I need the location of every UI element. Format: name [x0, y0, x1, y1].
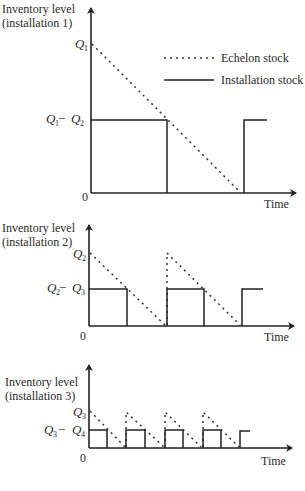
chart-installation-2: Inventory level (installation 2) Q 2 Q 2… — [2, 221, 294, 344]
y-tick-mid: Q 3 − Q 4 — [44, 422, 85, 439]
origin-label: 0 — [82, 190, 88, 204]
x-axis-label: Time — [264, 197, 289, 211]
figure-canvas: Inventory level (installation 1) Q 1 Q 1… — [0, 0, 305, 491]
y-tick-mid: Q 1 − Q 2 — [46, 111, 84, 128]
y-tick-top: Q 2 — [73, 246, 86, 263]
y-axis-label-line1: Inventory level — [2, 221, 76, 235]
svg-text:2: 2 — [80, 119, 84, 128]
y-tick-mid: Q 2 − Q 3 — [47, 280, 85, 297]
y-axis-label-line1: Inventory level — [5, 375, 79, 389]
chart-installation-1: Inventory level (installation 1) Q 1 Q 1… — [2, 2, 303, 211]
svg-text:3: 3 — [81, 288, 85, 297]
installation-stock-line — [89, 289, 263, 326]
x-axis-label: Time — [261, 454, 286, 468]
y-tick-top: Q 3 — [73, 404, 86, 421]
origin-label: 0 — [80, 451, 86, 465]
installation-stock-line — [89, 430, 250, 448]
legend: Echelon stock Installation stock — [164, 51, 303, 87]
svg-text:2: 2 — [82, 254, 86, 263]
y-axis-label-line2: (installation 1) — [2, 16, 72, 30]
origin-label: 0 — [80, 329, 86, 343]
y-axis-label-line2: (installation 3) — [5, 389, 75, 403]
svg-text:1: 1 — [84, 44, 88, 53]
svg-text:4: 4 — [81, 430, 85, 439]
y-axis-label-line2: (installation 2) — [2, 235, 72, 249]
svg-text:−: − — [58, 111, 65, 126]
svg-text:3: 3 — [82, 412, 86, 421]
svg-text:−: − — [58, 422, 65, 437]
legend-installation-label: Installation stock — [221, 73, 303, 87]
svg-text:3: 3 — [53, 430, 57, 439]
x-axis-label: Time — [264, 330, 289, 344]
echelon-stock-line — [92, 44, 240, 192]
y-axis-label-line1: Inventory level — [2, 2, 76, 16]
svg-text:−: − — [59, 280, 66, 295]
installation-stock-line — [91, 120, 267, 193]
legend-echelon-label: Echelon stock — [221, 51, 289, 65]
y-tick-top: Q 1 — [75, 36, 88, 53]
chart-installation-3: Inventory level (installation 3) Q 3 Q 3… — [5, 365, 292, 468]
